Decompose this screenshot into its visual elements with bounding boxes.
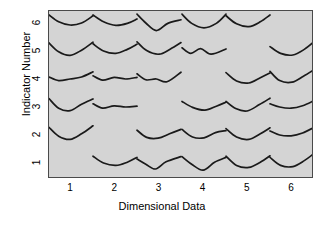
curve-glyph <box>226 13 270 33</box>
curve-glyph <box>137 153 181 173</box>
y-tick-label: 5 <box>31 45 42 57</box>
y-tick-label: 4 <box>31 73 42 85</box>
y-tick-label: 2 <box>31 129 42 141</box>
plot-panel <box>48 10 313 178</box>
curve-glyph <box>49 69 93 89</box>
curve-glyph <box>182 153 226 173</box>
curve-glyph <box>182 13 226 33</box>
curve-glyph <box>182 125 226 145</box>
curve-glyph <box>226 153 270 173</box>
glyph-layer <box>49 11 312 177</box>
curve-glyph <box>137 41 181 61</box>
x-tick-label: 1 <box>62 182 78 193</box>
curve-glyph <box>137 69 181 89</box>
y-tick-label: 3 <box>31 101 42 113</box>
curve-glyph <box>270 69 313 89</box>
curve-glyph <box>182 41 226 61</box>
x-tick-label: 3 <box>150 182 166 193</box>
x-axis-title: Dimensional Data <box>0 200 324 212</box>
curve-glyph <box>93 13 137 33</box>
curve-glyph <box>93 41 137 61</box>
x-tick-label: 2 <box>106 182 122 193</box>
curve-glyph <box>226 125 270 145</box>
curve-glyph <box>270 125 313 145</box>
curve-glyph <box>49 125 93 145</box>
x-tick-label: 4 <box>195 182 211 193</box>
curve-glyph <box>270 153 313 173</box>
y-tick-label: 1 <box>31 157 42 169</box>
curve-glyph <box>270 41 313 61</box>
y-tick-label: 6 <box>31 17 42 29</box>
curve-glyph <box>226 97 270 117</box>
curve-glyph <box>226 69 270 89</box>
curve-glyph <box>93 153 137 173</box>
curve-glyph <box>93 97 137 117</box>
x-tick-label: 6 <box>283 182 299 193</box>
curve-glyph <box>137 13 181 33</box>
curve-glyph <box>137 125 181 145</box>
curve-glyph <box>49 97 93 117</box>
curve-glyph <box>49 41 93 61</box>
x-tick-label: 5 <box>239 182 255 193</box>
curve-glyph <box>49 13 93 33</box>
curve-lattice-chart: Indicator Number 123456 123456 Dimension… <box>0 0 324 226</box>
curve-glyph <box>182 97 226 117</box>
curve-glyph <box>93 69 137 89</box>
curve-glyph <box>270 97 313 117</box>
